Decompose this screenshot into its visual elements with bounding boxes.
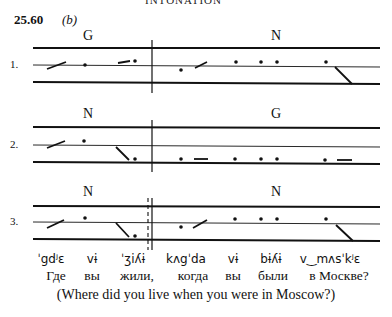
dot [233,217,237,221]
russian-word: Где [46,268,66,284]
dot [259,157,263,161]
dot [259,217,263,221]
phonetic-word: vɨ [228,252,238,266]
staff-1 [33,40,380,93]
falling-stroke [116,147,129,160]
english-translation: (Where did you live when you were in Mos… [0,287,392,303]
phonetic-word: ˈgdʲɛ [37,252,64,266]
dot [233,157,237,161]
staff-2 [33,120,380,172]
dot [234,60,238,64]
dot [133,59,137,63]
dot [83,63,87,67]
rising-stroke [47,220,64,228]
level-stroke [118,61,130,63]
russian-word: жили, [120,268,154,284]
dot [82,139,86,143]
rising-stroke [195,62,207,68]
dot [324,217,328,221]
dot [133,157,137,161]
dot [179,68,183,72]
dot [133,234,137,238]
rising-stroke [47,141,65,148]
falling-stroke [116,223,129,237]
dot [179,157,183,161]
staff-1-bottom-line [33,82,380,84]
dot [324,60,328,64]
rising-stroke [193,220,207,228]
staff-2-top-line [33,127,380,128]
dot [259,60,263,64]
staff-2-bottom-line [33,162,380,164]
dot [275,217,279,221]
phonetic-word: bɨʎɨ [260,252,281,266]
staff-3-top-line [33,206,380,207]
phonetic-word: kʌgˈda [166,252,206,266]
dot [323,158,327,162]
russian-word: вы [225,268,240,284]
staff-3-mid-line [33,222,380,224]
dot [83,216,87,220]
russian-word: вы [84,268,99,284]
dot [275,157,279,161]
russian-word: были [258,268,288,284]
staff-3-bottom-line [33,239,380,241]
russian-word: когда [178,268,208,284]
staff-2-mid-line [33,145,380,147]
phonetic-word: vɨ [87,252,97,266]
dot [179,225,183,229]
staff-3 [33,198,380,250]
russian-word: в Москве? [309,268,368,284]
phonetic-word: ˈʒiʎɨ [121,252,145,266]
falling-stroke [335,67,352,84]
phonetic-word: v‿mʌsˈkʲɛ [300,252,361,266]
falling-stroke [336,225,353,241]
dot [275,60,279,64]
